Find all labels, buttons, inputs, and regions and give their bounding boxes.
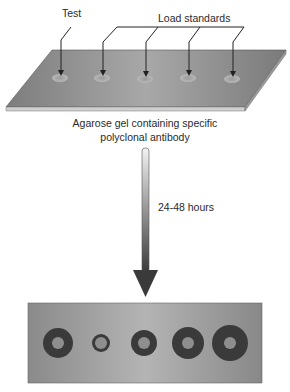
well-standard-3 xyxy=(180,74,196,82)
well-standard-2 xyxy=(137,75,153,83)
well-standard-1 xyxy=(94,74,110,82)
gel-caption-line2: polyclonal antibody xyxy=(0,130,290,144)
time-label: 24-48 hours xyxy=(158,201,214,213)
well-standard-4 xyxy=(224,75,240,83)
immunodiffusion-diagram xyxy=(0,0,290,392)
load-standards-label: Load standards xyxy=(158,12,230,24)
well-test xyxy=(52,74,68,82)
time-arrow xyxy=(133,148,158,297)
gel-caption-line1: Agarose gel containing specific xyxy=(0,116,290,130)
gel-caption: Agarose gel containing specific polyclon… xyxy=(0,116,290,144)
test-label: Test xyxy=(62,7,81,19)
